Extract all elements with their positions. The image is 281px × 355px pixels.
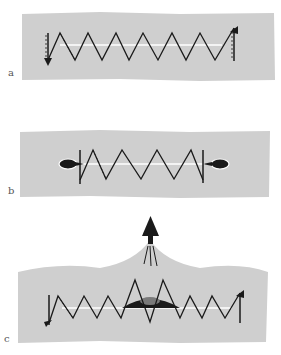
panel-b-label: b [8, 185, 14, 196]
panel-a-label: a [8, 67, 14, 78]
panel-c-background [18, 240, 268, 343]
panel-a-background [22, 12, 275, 81]
figure-canvas [0, 0, 281, 355]
panel-c-label: c [4, 333, 10, 344]
arrow-up-icon [142, 216, 159, 236]
